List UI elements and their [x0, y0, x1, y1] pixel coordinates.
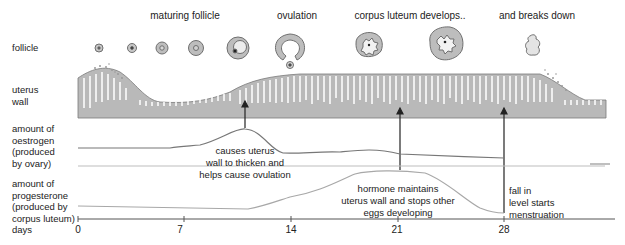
note-line: causes uterus [199, 145, 290, 157]
progesterone-annotation: hormone maintains uterus wall and stops … [341, 183, 455, 219]
note-line: menstruation [509, 209, 564, 221]
follicle-icons [95, 27, 540, 69]
row-label-days: days [12, 224, 32, 236]
label-line: progesterone [12, 190, 75, 202]
stage-breaks-down: and breaks down [499, 10, 575, 21]
stage-corpus-luteum-develops: corpus luteum develops.. [354, 10, 465, 21]
menstruation-annotation: fall in level starts menstruation [509, 185, 564, 221]
x-tick-28: 28 [498, 224, 509, 235]
row-label-progesterone: amount of progesterone (produced by corp… [12, 178, 75, 224]
label-line: (produced by [12, 201, 75, 213]
x-tick-14: 14 [285, 224, 296, 235]
label-line: (produced [12, 146, 55, 158]
row-label-oestrogen: amount of oestrogen (produced by ovary) [12, 123, 55, 169]
corpus-luteum-icon-2 [430, 27, 463, 60]
stage-ovulation: ovulation [277, 10, 317, 21]
follicle-icon-5 [227, 37, 249, 59]
note-line: hormone maintains [341, 183, 455, 195]
follicle-icon-1 [95, 44, 103, 52]
label-line: wall [12, 96, 38, 108]
uterus-wall-illustration [78, 63, 606, 118]
row-label-uterus-wall: uterus wall [12, 84, 38, 107]
label-line: uterus [12, 84, 38, 96]
label-line: amount of [12, 178, 75, 190]
row-label-follicle: follicle [12, 42, 38, 54]
oestrogen-annotation: causes uterus wall to thicken and helps … [199, 145, 290, 181]
label-line: corpus luteum) [12, 213, 75, 225]
note-line: fall in [509, 185, 564, 197]
note-line: helps cause ovulation [199, 169, 290, 181]
stage-maturing-follicle: maturing follicle [150, 10, 219, 21]
x-tick-7: 7 [177, 224, 183, 235]
ovulation-icon [275, 34, 304, 69]
note-line: eggs developing [341, 207, 455, 219]
note-line: level starts [509, 197, 564, 209]
note-line: uterus wall and stops other [341, 195, 455, 207]
label-line: by ovary) [12, 158, 55, 170]
x-tick-0: 0 [75, 224, 81, 235]
label-line: amount of [12, 123, 55, 135]
note-line: wall to thicken and [199, 157, 290, 169]
follicle-icon-3 [156, 42, 168, 54]
corpus-luteum-icon-1 [356, 32, 382, 56]
oestrogen-curve [78, 129, 504, 158]
x-tick-21: 21 [391, 224, 402, 235]
follicle-icon-4 [189, 41, 204, 56]
follicle-icon-2 [128, 44, 137, 53]
degenerating-corpus-icon [526, 35, 540, 55]
label-line: oestrogen [12, 135, 55, 147]
